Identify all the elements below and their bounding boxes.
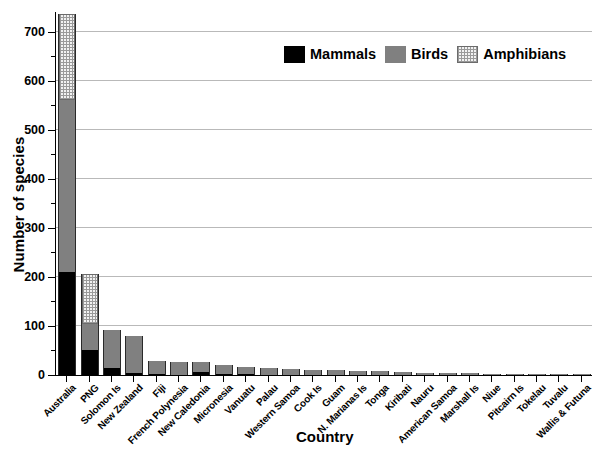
bar-segment-birds <box>82 324 98 351</box>
legend-item-birds: Birds <box>385 46 448 63</box>
y-axis-title: Number of species <box>10 115 27 295</box>
x-tick-12 <box>335 376 336 382</box>
y-tick-mark <box>48 179 55 180</box>
bar-segment-mammals <box>82 350 98 375</box>
x-tick-3 <box>133 376 134 382</box>
y-tick-mark <box>51 154 55 155</box>
x-tick-15 <box>402 376 403 382</box>
legend-label-birds: Birds <box>411 47 448 62</box>
legend-label-mammals: Mammals <box>310 47 376 62</box>
bar-png[interactable] <box>81 274 99 375</box>
x-axis-label-fiji: Fiji <box>150 382 167 399</box>
bar-segment-birds <box>149 361 165 374</box>
y-tick-label-500: 500 <box>24 123 45 137</box>
bar-segment-birds <box>216 365 232 374</box>
y-tick-label-0: 0 <box>38 368 45 382</box>
bar-segment-amphibians <box>82 274 98 323</box>
bar-segment-mammals <box>59 272 75 375</box>
x-tick-7 <box>223 376 224 382</box>
y-tick-label-400: 400 <box>24 172 45 186</box>
legend-item-mammals: Mammals <box>284 46 376 63</box>
x-tick-5 <box>178 376 179 382</box>
bar-french-polynesia[interactable] <box>170 362 188 375</box>
x-tick-17 <box>447 376 448 382</box>
bar-segment-birds <box>261 368 277 374</box>
x-tick-23 <box>581 376 582 382</box>
legend-label-amphibians: Amphibians <box>483 47 566 62</box>
y-tick-mark <box>48 277 55 278</box>
bar-fiji[interactable] <box>148 361 166 375</box>
x-tick-2 <box>111 376 112 382</box>
y-tick-mark <box>51 203 55 204</box>
bar-segment-birds <box>171 362 187 375</box>
legend-swatch-birds-icon <box>385 46 406 63</box>
bar-series-container <box>55 12 592 375</box>
bar-segment-birds <box>350 371 366 375</box>
y-tick-label-700: 700 <box>24 25 45 39</box>
y-tick-mark <box>48 130 55 131</box>
y-tick-mark <box>48 375 55 376</box>
x-axis-label-australia: Australia <box>41 382 78 419</box>
y-tick-mark <box>51 301 55 302</box>
x-tick-10 <box>290 376 291 382</box>
chart-legend: Mammals Birds Amphibians <box>284 46 566 63</box>
bar-australia[interactable] <box>58 14 76 375</box>
x-tick-0 <box>66 376 67 382</box>
y-tick-mark <box>48 326 55 327</box>
bar-segment-birds <box>283 369 299 374</box>
x-axis-line <box>55 375 592 376</box>
bar-segment-birds <box>59 100 75 272</box>
y-axis-line <box>55 12 56 376</box>
x-tick-13 <box>357 376 358 382</box>
y-tick-mark <box>51 350 55 351</box>
y-tick-mark <box>51 56 55 57</box>
y-tick-mark <box>51 105 55 106</box>
bar-micronesia[interactable] <box>215 365 233 375</box>
y-tick-mark <box>48 81 55 82</box>
plot-area <box>55 12 592 375</box>
x-tick-1 <box>89 376 90 382</box>
legend-swatch-amphibians-icon <box>457 46 478 63</box>
bar-new-caledonia[interactable] <box>192 362 210 375</box>
bar-segment-birds <box>193 362 209 372</box>
y-tick-label-200: 200 <box>24 270 45 284</box>
bar-segment-birds <box>104 330 120 368</box>
bar-segment-birds <box>238 367 254 374</box>
legend-swatch-mammals-icon <box>284 46 305 63</box>
bar-vanuatu[interactable] <box>237 367 255 375</box>
x-tick-18 <box>469 376 470 382</box>
x-tick-21 <box>536 376 537 382</box>
x-tick-14 <box>379 376 380 382</box>
x-tick-16 <box>424 376 425 382</box>
legend-item-amphibians: Amphibians <box>457 46 566 63</box>
x-tick-6 <box>200 376 201 382</box>
bar-segment-birds <box>372 371 388 374</box>
bar-new-zealand[interactable] <box>125 336 143 375</box>
y-tick-label-100: 100 <box>24 319 45 333</box>
bar-segment-birds <box>305 370 321 375</box>
bar-segment-birds <box>328 370 344 374</box>
bar-palau[interactable] <box>260 368 278 375</box>
x-tick-11 <box>312 376 313 382</box>
bar-chart: Number of species Country 01002003004005… <box>0 0 605 468</box>
x-tick-20 <box>514 376 515 382</box>
y-tick-label-600: 600 <box>24 74 45 88</box>
x-tick-19 <box>491 376 492 382</box>
y-tick-label-300: 300 <box>24 221 45 235</box>
bar-segment-birds <box>126 336 142 373</box>
y-tick-mark <box>48 32 55 33</box>
x-tick-9 <box>268 376 269 382</box>
y-tick-mark <box>48 228 55 229</box>
x-tick-4 <box>156 376 157 382</box>
y-tick-mark <box>51 252 55 253</box>
bar-solomon-is[interactable] <box>103 330 121 375</box>
x-tick-22 <box>558 376 559 382</box>
x-tick-8 <box>245 376 246 382</box>
bar-segment-mammals <box>104 368 120 375</box>
bar-segment-amphibians <box>59 14 75 100</box>
